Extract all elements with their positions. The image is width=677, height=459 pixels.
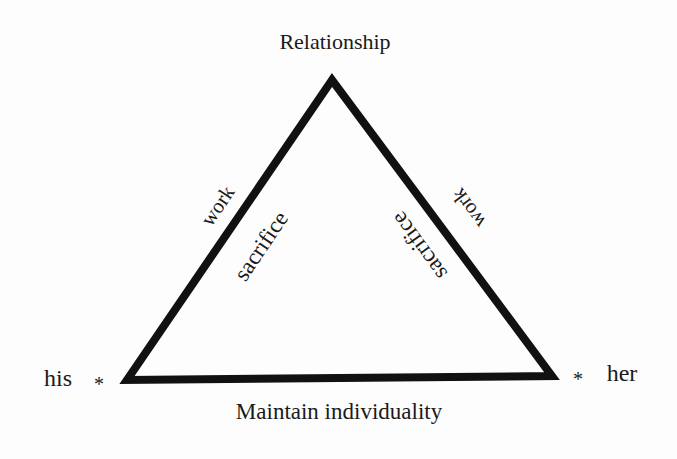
asterisk-marker-his: * <box>94 374 104 394</box>
triangle-diagram: Relationship his * * her work sacrifice … <box>0 0 677 459</box>
triangle-outline <box>127 80 552 380</box>
vertex-label-her: her <box>607 361 638 385</box>
asterisk-marker-her: * <box>573 369 583 389</box>
vertex-label-his: his <box>44 366 72 390</box>
apex-label-relationship: Relationship <box>279 31 390 53</box>
bottom-edge-label-maintain-individuality: Maintain individuality <box>236 400 442 423</box>
